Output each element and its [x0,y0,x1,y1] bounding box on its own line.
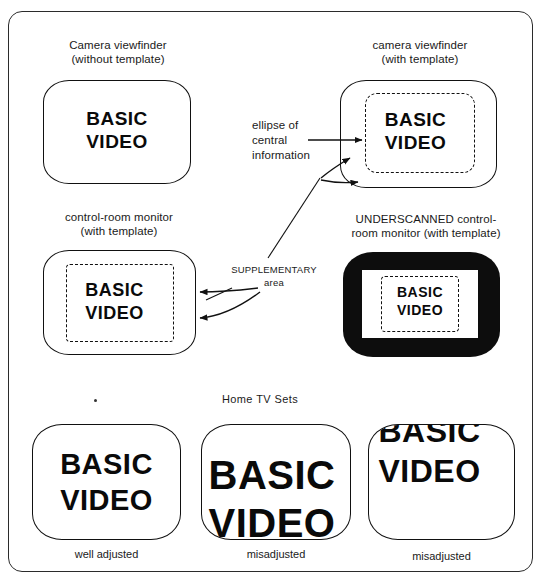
label-camera-viewfinder-with-template: camera viewfinder (with template) [340,38,500,66]
screen-text-line1: BASIC [44,107,190,130]
underscanned-control-room-monitor: BASIC VIDEO [343,252,500,357]
label-control-room-monitor: control-room monitor (with template) [34,210,204,238]
annotation-supplementary-area: SUPPLEMENTARY area [222,263,326,289]
screen-text-line1: BASIC [33,446,180,482]
label-home-tv-sets: Home TV Sets [200,392,320,406]
label-underscanned-monitor: UNDERSCANNED control- room monitor (with… [340,212,512,240]
home-tv-set-well-adjusted: BASIC VIDEO [32,424,181,540]
label-camera-viewfinder-without-template: Camera viewfinder (without template) [42,38,194,66]
annotation-ellipse-of-central-information: ellipse of central information [252,118,340,163]
control-room-monitor-with-template: BASIC VIDEO [43,250,196,355]
screen-text-tv-misadjusted-large: BASIC VIDEO [201,451,346,540]
screen-text-line2: VIDEO [201,499,346,540]
screen-text-line1: BASIC [58,279,171,302]
caption-tv-well-adjusted: well adjusted [32,548,181,561]
screen-text-line1: BASIC [378,283,462,301]
screen-text-viewfinder-plain: BASIC VIDEO [44,107,190,153]
screen-text-underscanned: BASIC VIDEO [378,283,462,319]
screen-text-line2: VIDEO [353,131,478,154]
screen-text-control-room: BASIC VIDEO [58,279,171,325]
underscanned-visible-raster: BASIC VIDEO [362,270,478,338]
home-tv-set-misadjusted-large: BASIC VIDEO [201,424,351,540]
caption-tv-misadjusted-large: misadjusted [201,548,351,561]
asterisk-mark [94,399,97,402]
home-tv-set-misadjusted-shifted: BASIC VIDEO [368,424,515,540]
screen-text-tv-well-adjusted: BASIC VIDEO [33,446,180,518]
screen-text-tv-misadjusted-shifted: BASIC VIDEO [368,424,498,491]
screen-text-line2: VIDEO [33,482,180,518]
caption-tv-misadjusted-shifted: misadjusted [368,550,515,563]
screen-text-line2: VIDEO [58,302,171,325]
screen-text-line2: VIDEO [378,301,462,319]
camera-viewfinder-with-template: BASIC VIDEO [340,80,497,188]
screen-text-line2: VIDEO [44,130,190,153]
screen-text-line1: BASIC [368,424,498,451]
camera-viewfinder-without-template: BASIC VIDEO [43,80,191,184]
screen-text-viewfinder-template: BASIC VIDEO [353,108,478,154]
screen-text-line2: VIDEO [368,451,498,491]
screen-text-line1: BASIC [353,108,478,131]
figure-canvas: Camera viewfinder (without template) BAS… [0,0,543,585]
screen-text-line1: BASIC [201,451,346,499]
